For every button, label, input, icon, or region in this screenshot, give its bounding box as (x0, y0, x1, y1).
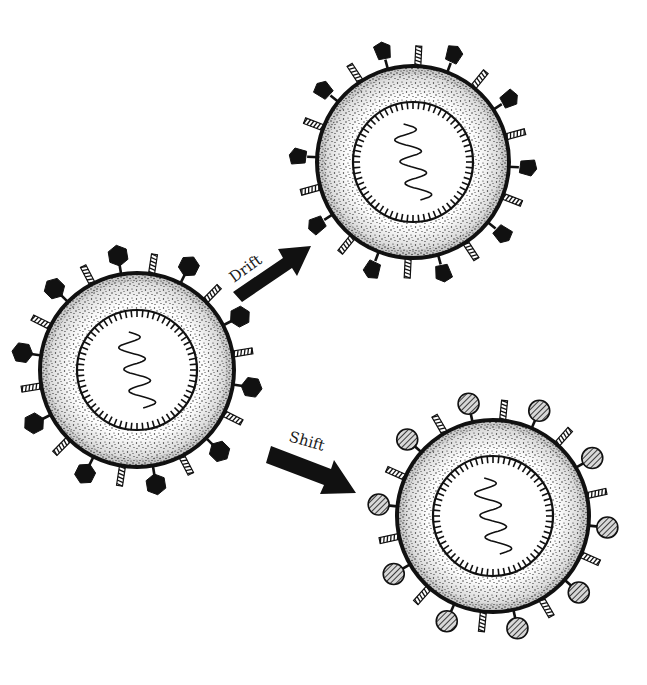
antigen-spike-icon (397, 429, 423, 453)
antigen-spike-icon (178, 257, 199, 285)
shift-label: Shift (287, 428, 327, 455)
antigen-spike-icon (436, 253, 453, 282)
antigen-spike-icon (574, 448, 603, 469)
capsid (433, 456, 553, 576)
antigenic-variation-diagram: Drift Shift (0, 0, 647, 685)
antigen-spike-icon (492, 89, 518, 111)
antigen-spike-icon (529, 400, 550, 430)
antigen-spike-icon (108, 245, 128, 276)
antigen-spike-icon (309, 213, 335, 235)
antigen-spike-icon (12, 343, 43, 363)
shift-arrow: Shift (266, 428, 356, 494)
antigen-spike-icon (205, 437, 230, 462)
antigen-spike-icon (221, 306, 249, 327)
antigen-spike-icon (486, 221, 512, 243)
antigen-spike-icon (383, 563, 412, 584)
antigen-spike-icon (436, 602, 457, 632)
antigen-spike-icon (563, 579, 589, 603)
antigen-spike-icon (374, 42, 391, 71)
antigen-spike-icon (507, 160, 537, 176)
original-virus (12, 245, 262, 494)
antigen-spike-icon (44, 278, 69, 303)
antigen-spike-icon (25, 413, 53, 434)
antigen-spike-icon (289, 148, 319, 164)
shift-arrow-icon (266, 446, 356, 494)
capsid (353, 102, 473, 222)
antigen-spike-icon (146, 464, 166, 495)
antigen-spike-icon (446, 46, 463, 74)
antigen-spike-icon (75, 455, 96, 483)
drift-arrow: Drift (226, 246, 311, 302)
antigen-spike-icon (368, 494, 399, 515)
antigen-spike-icon (314, 81, 340, 103)
capsid (77, 310, 197, 430)
drift-virus (289, 42, 536, 282)
antigen-spike-icon (587, 517, 618, 538)
antigen-spike-icon (231, 378, 262, 398)
shift-virus (368, 393, 618, 639)
antigen-spike-icon (363, 250, 380, 278)
